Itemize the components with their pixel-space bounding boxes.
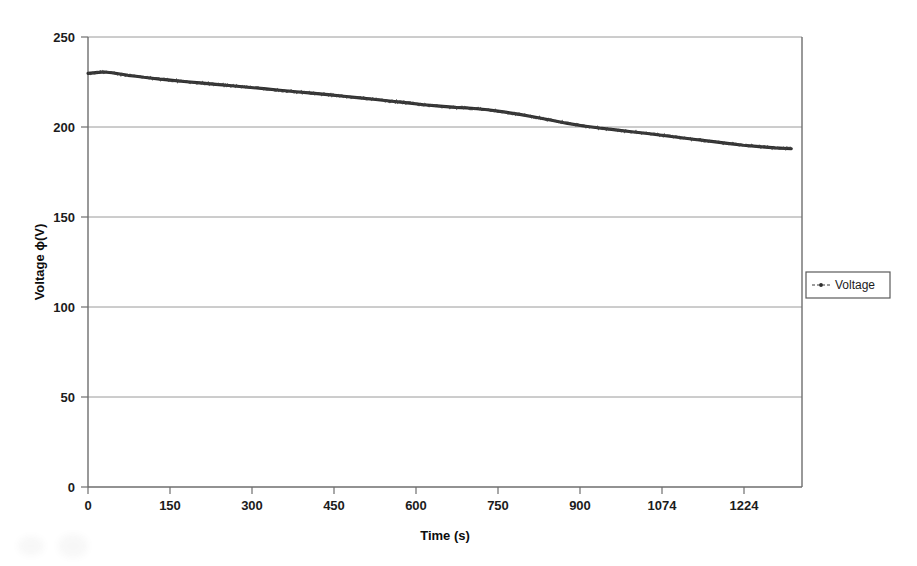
grid-lines: [88, 37, 802, 397]
x-axis-title: Time (s): [420, 528, 470, 543]
legend-marker-icon: [819, 283, 823, 287]
data-line-voltage-noise: [88, 71, 791, 150]
y-tick-label-100: 100: [53, 300, 75, 315]
y-tick-label-50: 50: [61, 390, 75, 405]
x-tick-marks: [88, 487, 744, 494]
x-tick-label-1074: 1074: [648, 498, 678, 513]
x-tick-label-900: 900: [569, 498, 591, 513]
voltage-vs-time-chart: 250 200 150 100 50 0 0 150 300 450 600 7…: [0, 0, 917, 566]
y-tick-label-200: 200: [53, 120, 75, 135]
y-axis-title: Voltage ɸ(V): [32, 224, 47, 301]
y-tick-label-150: 150: [53, 210, 75, 225]
y-tick-marks: [81, 37, 88, 487]
chart-figure: 250 200 150 100 50 0 0 150 300 450 600 7…: [0, 0, 917, 566]
x-tick-label-0: 0: [84, 498, 91, 513]
x-tick-label-600: 600: [405, 498, 427, 513]
x-tick-label-750: 750: [487, 498, 509, 513]
x-tick-label-1224: 1224: [730, 498, 760, 513]
y-tick-label-250: 250: [53, 30, 75, 45]
series-voltage: [88, 71, 791, 150]
data-line-voltage: [88, 72, 791, 149]
legend[interactable]: Voltage: [806, 272, 890, 298]
x-tick-label-300: 300: [241, 498, 263, 513]
y-tick-label-0: 0: [68, 480, 75, 495]
x-tick-label-150: 150: [159, 498, 181, 513]
x-tick-label-450: 450: [323, 498, 345, 513]
legend-label-voltage: Voltage: [835, 278, 875, 292]
